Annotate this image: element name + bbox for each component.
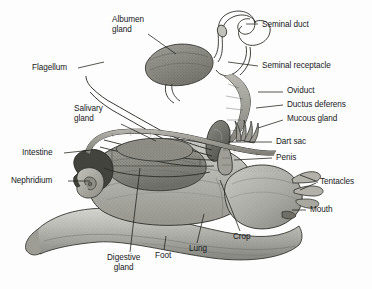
snail-anatomy-figure: Albumen gland Seminal duct Seminal recep… [0, 0, 372, 289]
label-seminal-duct: Seminal duct [262, 20, 309, 30]
label-seminal-receptacle: Seminal receptacle [262, 61, 331, 71]
leader-flagellum [78, 62, 104, 68]
label-tentacles: Tentacles [320, 177, 354, 187]
label-mouth: Mouth [310, 205, 333, 215]
label-nephridium: Nephridium [11, 176, 52, 186]
label-albumen-gland: Albumen gland [112, 15, 144, 34]
leader-ductus-deferens [256, 105, 283, 108]
seminal-receptacle-organ [216, 24, 228, 38]
label-dart-sac: Dart sac [276, 137, 306, 147]
penis-organ [218, 146, 233, 175]
label-flagellum: Flagellum [32, 63, 67, 73]
label-mucous-gland: Mucous gland [287, 114, 337, 124]
leader-mucous-gland [258, 120, 283, 128]
label-salivary-gland: Salivary gland [74, 104, 103, 123]
label-intestine: Intestine [22, 148, 53, 158]
reproductive-system [86, 11, 276, 177]
label-ductus-deferens: Ductus deferens [287, 100, 346, 110]
albumen-gland-organ [140, 38, 225, 103]
leader-seminal-receptacle [228, 62, 258, 66]
label-lung: Lung [189, 244, 207, 254]
label-oviduct: Oviduct [287, 86, 314, 96]
label-foot: Foot [155, 251, 171, 261]
label-digestive-gland: Digestive gland [107, 253, 140, 272]
label-crop: Crop [233, 232, 251, 242]
anatomy-drawing [0, 0, 372, 289]
label-penis: Penis [276, 153, 296, 163]
